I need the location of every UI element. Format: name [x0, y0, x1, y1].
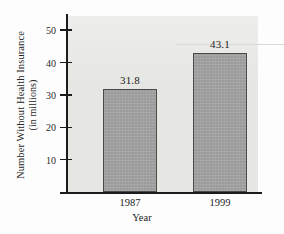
y-axis-line — [66, 14, 68, 194]
y-tick-label: 40 — [46, 57, 56, 68]
y-tick-label: 10 — [46, 154, 56, 165]
y-axis-title-line2: (in millions) — [27, 79, 39, 130]
y-tick-20 — [60, 127, 72, 128]
bar-1999 — [193, 53, 247, 192]
x-axis-title: Year — [0, 212, 284, 223]
y-tick-40 — [60, 62, 72, 63]
y-tick-label: 20 — [46, 122, 56, 133]
bar-1987 — [103, 89, 157, 192]
bar-value-label-1987: 31.8 — [120, 74, 140, 86]
x-axis-line — [60, 192, 262, 194]
y-tick-label: 50 — [46, 25, 56, 36]
y-tick-30 — [60, 94, 72, 95]
x-category-label-1999: 1999 — [210, 197, 231, 208]
y-tick-10 — [60, 159, 72, 160]
y-axis-title: Number Without Health Insurance (in mill… — [10, 10, 44, 200]
x-category-label-1987: 1987 — [120, 197, 141, 208]
y-tick-label: 30 — [46, 89, 56, 100]
bar-value-label-1999: 43.1 — [210, 38, 230, 50]
bar-chart-figure: Number Without Health Insurance (in mill… — [0, 0, 284, 234]
y-axis-title-line1: Number Without Health Insurance — [15, 31, 28, 179]
y-tick-50 — [60, 29, 72, 30]
